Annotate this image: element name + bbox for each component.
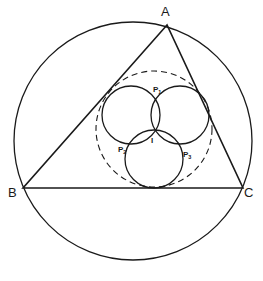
geometry-figure: A B C I P1 P2 P3 bbox=[0, 0, 263, 281]
point-label-p2: P2 bbox=[118, 145, 126, 155]
vertex-label-a: A bbox=[161, 4, 170, 19]
vertex-label-c: C bbox=[244, 185, 253, 200]
vertex-label-b: B bbox=[8, 185, 17, 200]
small-circle-bottom bbox=[125, 130, 183, 188]
point-label-i: I bbox=[151, 136, 153, 145]
point-label-p1: P1 bbox=[153, 85, 161, 95]
point-label-p3: P3 bbox=[183, 150, 191, 160]
circumcircle bbox=[14, 22, 252, 260]
